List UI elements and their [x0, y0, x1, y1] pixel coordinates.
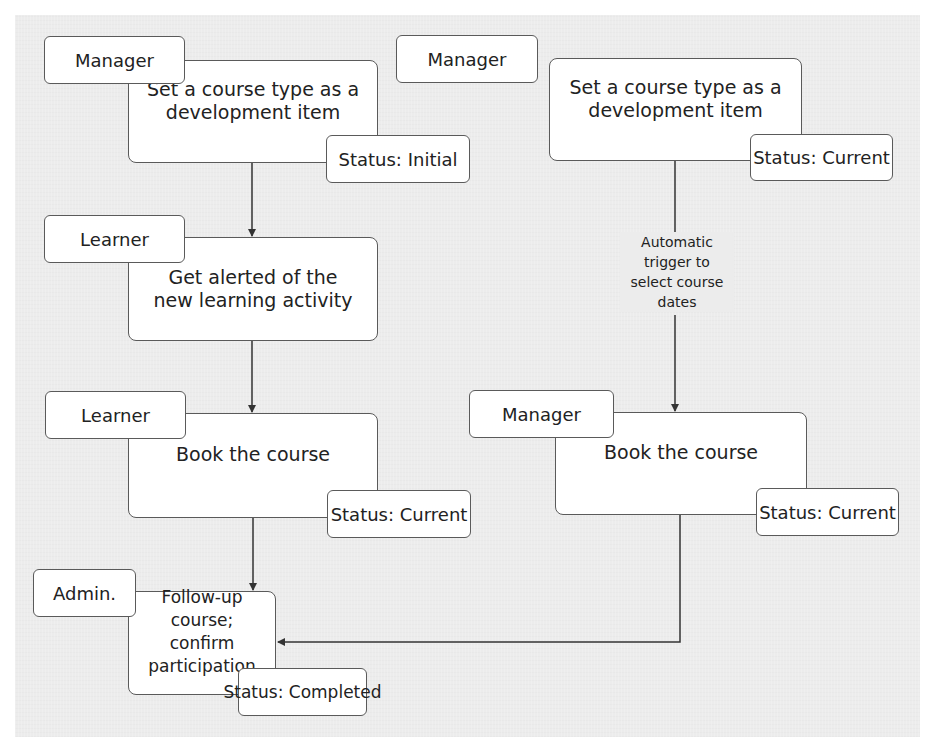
activity-text: Set a course type as a development item [569, 76, 781, 122]
automatic-trigger-label: Automatic trigger to select course dates [620, 232, 734, 312]
role-label: Learner [80, 229, 149, 250]
role-tab-right-2: Manager [469, 390, 614, 438]
status-label: Status: Current [331, 504, 468, 525]
status-badge-left-3: Status: Current [327, 490, 471, 538]
role-tab-left-2: Learner [44, 215, 185, 263]
status-label: Status: Current [753, 147, 890, 168]
role-tab-left-1: Manager [44, 36, 185, 84]
activity-text: Book the course [604, 441, 758, 464]
status-badge-left-1: Status: Initial [326, 135, 470, 183]
status-badge-left-4: Status: Completed [238, 668, 367, 716]
role-tab-left-4: Admin. [33, 569, 136, 617]
role-label: Manager [75, 50, 154, 71]
role-label: Manager [428, 49, 507, 70]
status-label: Status: Initial [339, 149, 458, 170]
role-label: Learner [81, 405, 150, 426]
role-label: Admin. [53, 583, 116, 604]
status-label: Status: Current [759, 502, 896, 523]
role-tab-right-1: Manager [396, 35, 538, 83]
status-badge-right-2: Status: Current [756, 488, 899, 536]
activity-text: Set a course type as a development item [147, 78, 359, 124]
status-badge-right-1: Status: Current [750, 134, 893, 181]
activity-text: Follow-up course; confirm participation [135, 586, 269, 678]
activity-text: Book the course [176, 443, 330, 466]
activity-text: Get alerted of the new learning activity [154, 266, 353, 312]
role-label: Manager [502, 404, 581, 425]
status-label: Status: Completed [223, 682, 381, 702]
role-tab-left-3: Learner [45, 391, 186, 439]
